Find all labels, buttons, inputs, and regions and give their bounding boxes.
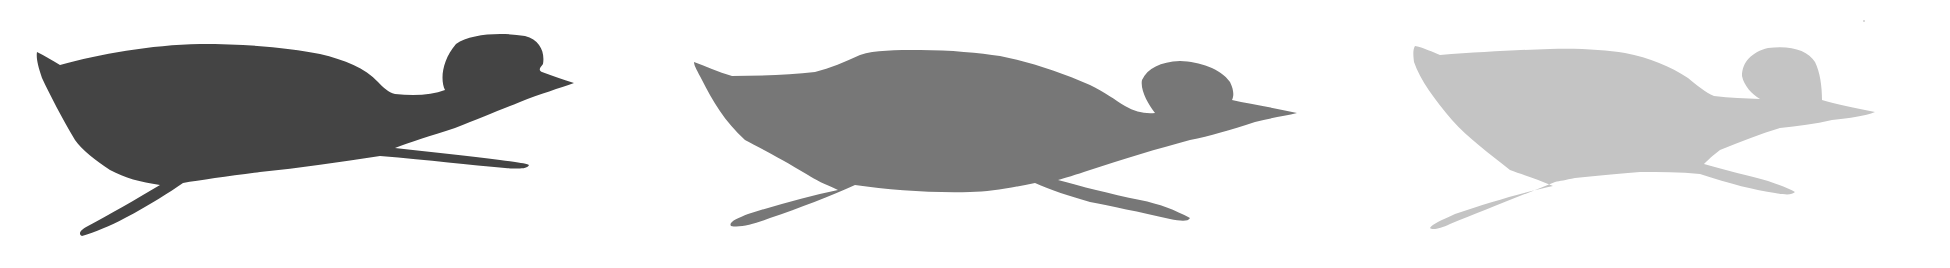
bird-silhouette-medium (694, 50, 1297, 227)
bird-silhouette-light (1413, 46, 1875, 229)
figure-canvas (0, 0, 1950, 268)
bird-silhouette-dark (37, 34, 574, 236)
scan-artifact-speck (1863, 20, 1865, 22)
silhouettes-svg (0, 0, 1950, 268)
